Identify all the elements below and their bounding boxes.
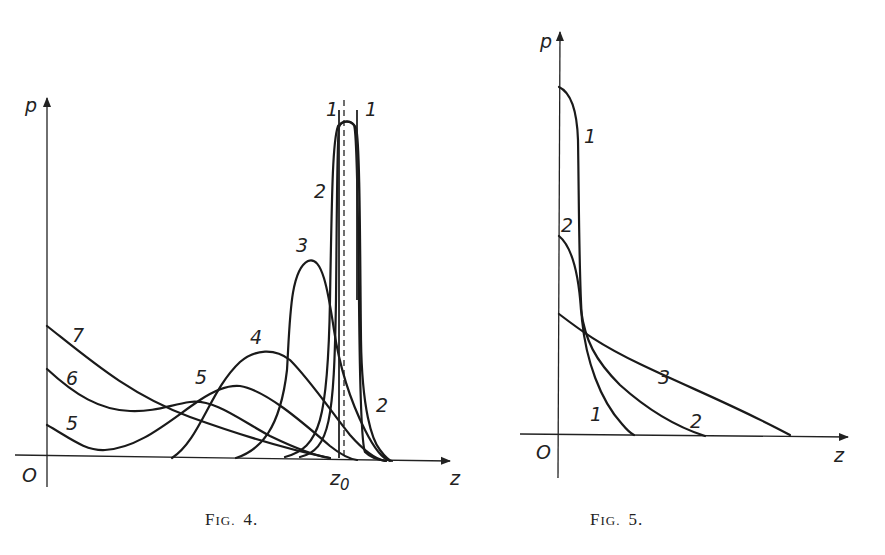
fig5-y-axis: [558, 32, 560, 478]
fig5-x-axis-label: z: [833, 444, 845, 466]
fig5-x-axis: [520, 434, 848, 437]
fig4-label-3: 3: [296, 234, 308, 256]
fig4-label-2-right: 2: [376, 394, 388, 416]
fig5-caption: FIG.5.: [590, 510, 643, 529]
fig4-label-1b: 1: [365, 98, 377, 120]
fig4-label-5-mid: 5: [195, 366, 207, 388]
fig4-label-7: 7: [72, 324, 84, 346]
fig4-curve-5: [47, 386, 357, 460]
fig4-label-4: 4: [250, 326, 262, 348]
fig4-label-5-left: 5: [66, 412, 78, 434]
fig4-y-axis-label: p: [24, 94, 37, 116]
figure-5: p z O 1 2 3 2 1 FIG.5.: [520, 30, 848, 529]
fig4-z0-label: z0: [329, 467, 350, 494]
fig5-label-1-bottom: 1: [590, 403, 602, 425]
fig4-curve-1: [300, 121, 386, 461]
fig4-label-2-top: 2: [314, 180, 326, 202]
fig5-curve-labels: 1 2 3 2 1: [561, 125, 702, 432]
fig4-label-1a: 1: [326, 98, 338, 120]
figure-4: p z O z0 1 1 2 3 4 5 7 6 5 2 FI: [15, 94, 461, 529]
fig5-label-2-top: 2: [561, 214, 573, 236]
fig4-caption: FIG.4.: [205, 510, 258, 529]
fig4-origin-label: O: [22, 464, 37, 486]
fig4-curve-6: [47, 369, 330, 458]
fig5-origin-label: O: [536, 441, 551, 463]
fig5-curve-1: [559, 87, 634, 435]
fig5-label-1-top: 1: [584, 125, 596, 147]
fig5-y-axis-label: p: [539, 30, 552, 52]
fig5-label-2-bottom: 2: [690, 410, 702, 432]
fig5-label-3: 3: [658, 366, 670, 388]
fig4-label-6: 6: [66, 367, 78, 389]
figure-canvas: p z O z0 1 1 2 3 4 5 7 6 5 2 FI: [0, 0, 885, 555]
fig4-x-axis-label: z: [449, 467, 461, 489]
